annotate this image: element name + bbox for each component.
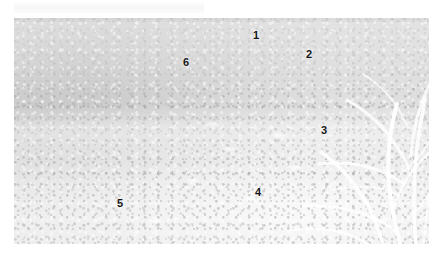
caption-bar	[14, 2, 204, 13]
ornamental-grass-clump	[285, 64, 429, 244]
callout-5: 5	[117, 198, 123, 209]
callout-2: 2	[306, 49, 312, 60]
callout-6: 6	[183, 57, 189, 68]
callout-4: 4	[255, 187, 261, 198]
callout-3: 3	[321, 125, 327, 136]
callout-1: 1	[253, 30, 259, 41]
garden-border-photograph	[14, 18, 429, 244]
